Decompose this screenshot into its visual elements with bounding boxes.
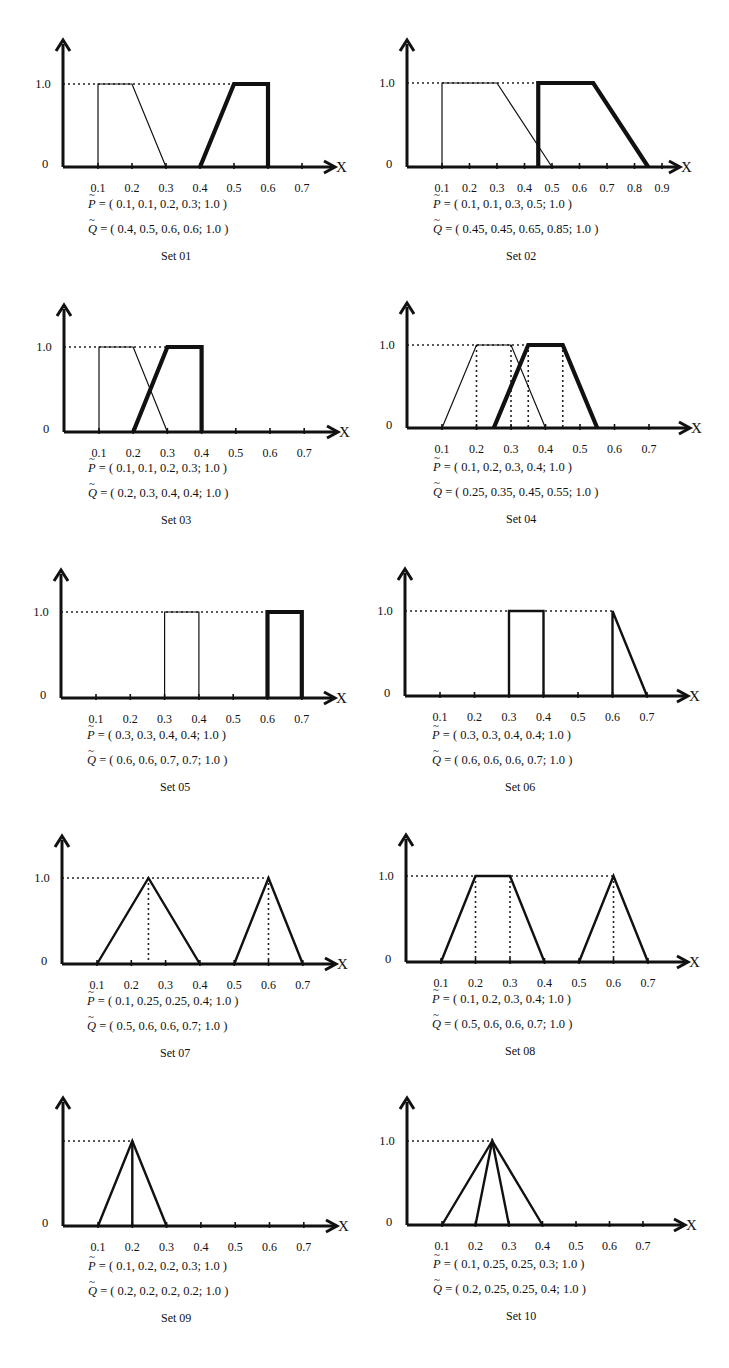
y-tick-label-one: 1.0 [379,1134,395,1148]
p-definition: P = ( 0.1, 0.25, 0.25, 0.3; 1.0 ) [433,1257,585,1272]
q-values: = ( 0.2, 0.25, 0.25, 0.4; 1.0 ) [442,1282,586,1296]
x-tick-label: 0.7 [636,1239,651,1253]
q-definition: Q = ( 0.2, 0.25, 0.25, 0.4; 1.0 ) [433,1282,586,1297]
p-symbol: P [433,1257,441,1272]
x-tick-label: 0.2 [468,1239,483,1253]
x-tick-label: 0.6 [602,1239,617,1253]
x-tick-label: 0.3 [502,1239,517,1253]
y-tick-label-zero: 0 [386,1215,392,1229]
x-axis-label: X [686,1217,697,1233]
fuzzy-number-figure: X0.10.20.30.40.50.60.701.0 P = ( 0.1, 0.… [0,0,729,1368]
membership-plot: X0.10.20.30.40.50.60.701.0 [0,0,729,1368]
set-label: Set 10 [506,1309,536,1324]
x-tick-label: 0.4 [535,1239,550,1253]
x-tick-label: 0.5 [569,1239,584,1253]
p-values: = ( 0.1, 0.25, 0.25, 0.3; 1.0 ) [441,1257,585,1271]
q-symbol: Q [433,1282,442,1297]
